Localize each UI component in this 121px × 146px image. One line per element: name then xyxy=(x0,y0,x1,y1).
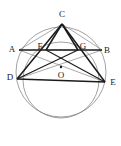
vertex-label-D: D xyxy=(7,73,14,82)
vertex-label-C: C xyxy=(59,10,65,19)
vertex-label-F: F xyxy=(37,42,42,51)
vertex-dots-group xyxy=(60,66,62,68)
vertex-label-O: O xyxy=(58,71,65,80)
geometry-figure: A C B F G D O E xyxy=(0,0,121,146)
vertex-label-B: B xyxy=(104,46,110,55)
vertex-label-A: A xyxy=(9,45,16,54)
vertex-label-E: E xyxy=(110,78,116,87)
center-dot-O xyxy=(60,66,62,68)
vertex-label-G: G xyxy=(80,42,87,51)
